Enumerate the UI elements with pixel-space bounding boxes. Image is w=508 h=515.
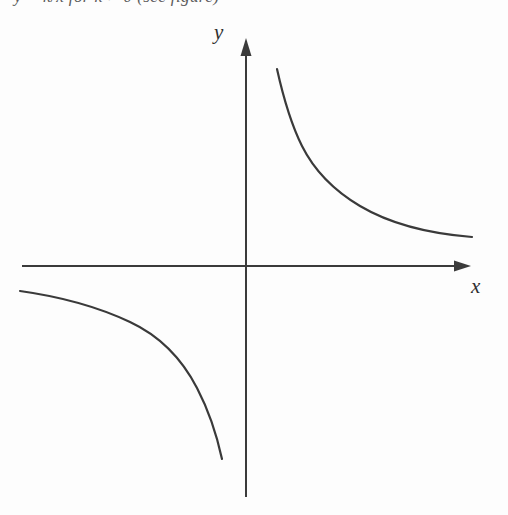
hyperbola-branch-quadrant-iii xyxy=(20,291,222,459)
y-axis-label: y xyxy=(214,22,223,43)
hyperbola-plot xyxy=(0,0,508,515)
x-axis-label: x xyxy=(471,276,480,297)
x-axis-arrowhead-icon xyxy=(454,261,471,272)
hyperbola-branch-quadrant-i xyxy=(277,69,472,237)
figure-page: y = k/x for k > 0 (see figure) y x xyxy=(0,0,508,515)
y-axis-arrowhead-icon xyxy=(241,38,252,56)
